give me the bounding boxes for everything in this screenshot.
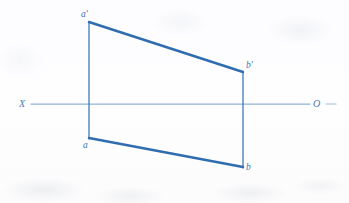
drawing-canvas <box>0 0 349 203</box>
front-view-segment <box>89 22 243 72</box>
vertex-label-a-prime: a' <box>81 10 88 20</box>
vertex-label-b-prime: b' <box>246 61 253 71</box>
top-view-segment <box>89 138 243 167</box>
projection-drawing-figure: a' b' a b X O <box>0 0 349 203</box>
axis-label-o: O <box>313 99 320 109</box>
vertex-label-b: b <box>246 163 251 173</box>
vertex-label-a: a <box>83 141 88 151</box>
axis-label-x: X <box>19 99 25 109</box>
